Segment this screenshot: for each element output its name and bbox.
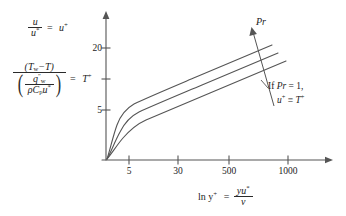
y-tick-label-5: 5 — [84, 105, 102, 115]
x-axis-label-equals: = — [222, 192, 232, 202]
note-rhs: T+ — [296, 95, 305, 105]
x-tick-label-30: 30 — [163, 166, 193, 176]
note-rest: = 1, — [289, 81, 304, 91]
temperature-equals: = — [68, 74, 78, 84]
pr-arrow-label: Pr — [256, 17, 266, 27]
temperature-result: T+ — [80, 74, 93, 84]
temperature-fraction: (Tw−T) ( q″w ρCpu* ) — [13, 62, 66, 95]
heat-flux-denominator: ρCpu* — [25, 84, 54, 95]
profile-curve-3 — [107, 61, 286, 159]
note-lead: If — [268, 81, 274, 91]
velocity-equals: = — [45, 23, 55, 33]
x-axis-label: ln y+ = yu* ν — [196, 186, 253, 207]
x-axis-label-lead: ln y+ — [196, 192, 219, 202]
heat-flux-fraction: q″w ρCpu* — [25, 74, 54, 95]
x-axis-label-numerator: yu* — [234, 186, 253, 196]
velocity-fraction: u u* — [28, 17, 42, 38]
pr-unity-note: If Pr = 1, u+ ≡ T+ — [268, 80, 304, 108]
note-pr: Pr — [277, 81, 287, 91]
x-tick-label-1000: 1000 — [273, 166, 303, 176]
y-axis-arrowhead — [103, 11, 110, 19]
pr-unity-note-line1: If Pr = 1, — [268, 80, 304, 94]
y-tick-label-20: 20 — [84, 43, 102, 53]
pr-unity-note-line2: u+ ≡ T+ — [268, 94, 304, 108]
temperature-denominator: ( q″w ρCpu* ) — [13, 72, 66, 95]
velocity-denominator: u* — [28, 27, 42, 38]
x-axis-label-fraction: yu* ν — [234, 186, 253, 207]
x-tick-label-500: 500 — [214, 166, 244, 176]
velocity-result: u+ — [57, 23, 70, 33]
left-paren: ( — [18, 73, 23, 95]
x-tick-label-5: 5 — [114, 166, 144, 176]
velocity-definition: u u* = u+ — [28, 17, 70, 38]
x-axis-label-denominator: ν — [234, 196, 253, 207]
note-op: ≡ — [288, 95, 293, 105]
right-paren: ) — [56, 73, 61, 95]
note-lhs: u+ — [277, 95, 285, 105]
pr-arrow-head — [249, 27, 257, 36]
x-axis-arrowhead — [325, 157, 333, 164]
profile-curve-2 — [107, 53, 278, 159]
temperature-definition: (Tw−T) ( q″w ρCpu* ) = T+ — [13, 62, 94, 95]
temperature-paren-group: ( q″w ρCpu* ) — [16, 73, 63, 95]
